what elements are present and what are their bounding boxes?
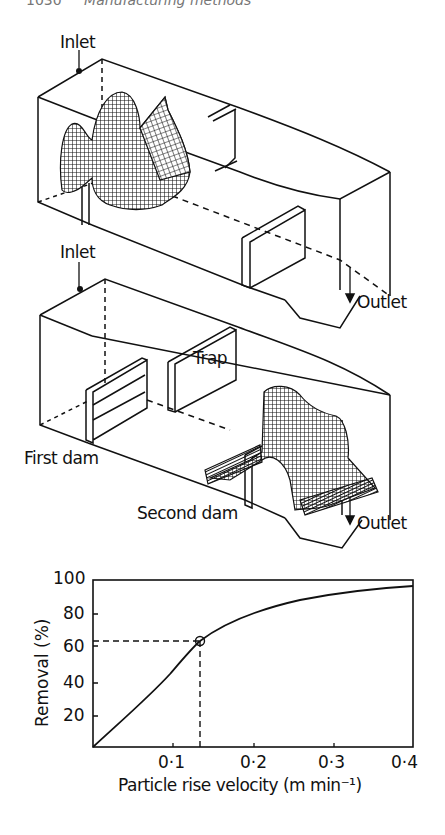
- x-tick-0-4: 0·4: [391, 752, 418, 772]
- first-dam-label: First dam: [24, 448, 98, 468]
- top-inlet-point: [76, 68, 82, 74]
- y-tick-100: 100: [53, 568, 85, 588]
- trap-label: Trap: [193, 348, 227, 368]
- top-outlet-label: Outlet: [357, 292, 407, 312]
- y-tick-20: 20: [63, 705, 85, 725]
- x-tick-0-3: 0·3: [318, 752, 345, 772]
- second-dam-label: Second dam: [137, 503, 238, 523]
- x-axis-label: Particle rise velocity (m min⁻¹): [118, 775, 362, 795]
- removal-chart: [93, 580, 413, 747]
- bottom-outlet-label: Outlet: [357, 513, 407, 533]
- x-tick-0-2: 0·2: [240, 752, 267, 772]
- removal-curve: [93, 586, 413, 747]
- top-inlet-label: Inlet: [60, 32, 95, 52]
- bottom-flow-mesh: [205, 386, 378, 515]
- bottom-inlet-label: Inlet: [60, 242, 95, 262]
- chart-frame: [93, 580, 413, 747]
- x-tick-0-1: 0·1: [158, 752, 185, 772]
- top-flow-mesh: [60, 92, 190, 210]
- y-axis-label: Removal (%): [32, 619, 52, 728]
- y-tick-40: 40: [63, 672, 85, 692]
- y-tick-60: 60: [63, 636, 85, 656]
- y-tick-80: 80: [63, 603, 85, 623]
- bottom-inlet-point: [77, 286, 83, 292]
